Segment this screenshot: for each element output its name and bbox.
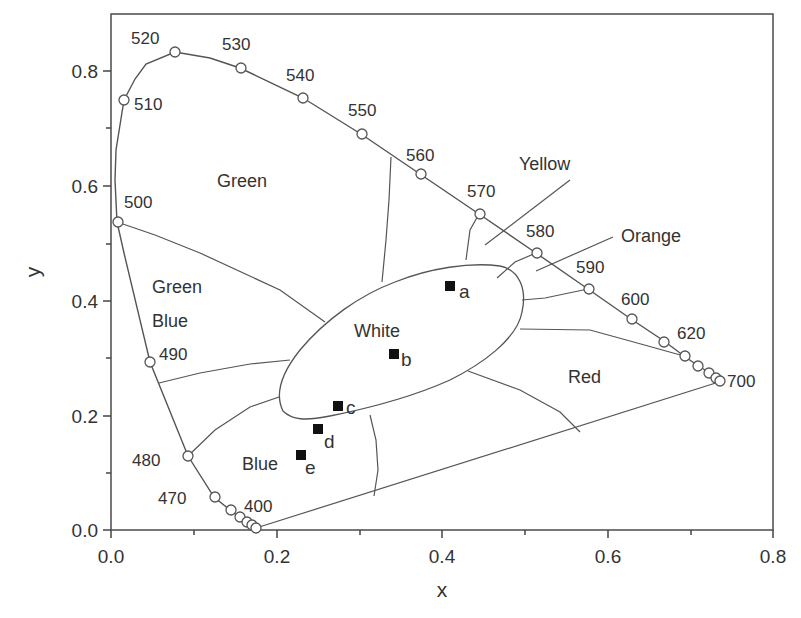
region-label-green-blue: Blue <box>152 311 188 331</box>
y-tick-label: 0.2 <box>72 406 98 427</box>
x-axis-ticks <box>111 530 773 538</box>
y-tick-label: 0.8 <box>72 61 98 82</box>
point-label: e <box>305 457 316 478</box>
wavelength-label: 520 <box>131 29 159 48</box>
wavelength-label: 510 <box>134 95 162 114</box>
x-tick-label: 0.6 <box>595 546 621 567</box>
x-axis-title: x <box>437 578 448 601</box>
region-label-orange: Orange <box>621 226 681 246</box>
wavelength-label: 620 <box>677 324 705 343</box>
x-tick-label: 0.4 <box>429 546 456 567</box>
point-label: d <box>324 431 335 452</box>
wavelength-label: 480 <box>132 451 160 470</box>
wavelength-label: 470 <box>158 489 186 508</box>
region-label-yellow: Yellow <box>519 154 571 174</box>
wavelength-label: 700 <box>727 372 755 391</box>
wavelength-label: 580 <box>526 222 554 241</box>
wavelength-label: 600 <box>621 290 649 309</box>
wavelength-label: 530 <box>222 35 250 54</box>
point-label: c <box>346 397 356 418</box>
wavelength-label: 490 <box>159 345 187 364</box>
x-tick-label: 0.2 <box>264 546 290 567</box>
plot-frame <box>111 14 773 530</box>
wavelength-label: 550 <box>348 101 376 120</box>
point-d-marker <box>313 424 323 434</box>
x-tick-label: 0.0 <box>98 546 124 567</box>
wavelength-label: 560 <box>406 146 434 165</box>
region-label-red: Red <box>568 367 601 387</box>
y-axis-title: y <box>21 266 44 277</box>
wavelength-label: 570 <box>467 182 495 201</box>
y-tick-label: 0.0 <box>72 520 98 541</box>
region-label-green-blue: Green <box>152 277 202 297</box>
wavelength-label: 500 <box>124 193 152 212</box>
y-axis-ticks <box>103 71 111 530</box>
x-tick-label: 0.8 <box>760 546 786 567</box>
region-label-green: Green <box>217 171 267 191</box>
wavelength-label: 400 <box>244 497 272 516</box>
region-label-white: White <box>354 321 400 341</box>
wavelength-label: 540 <box>286 66 314 85</box>
point-label: b <box>401 349 412 370</box>
line-of-purples <box>256 381 722 528</box>
point-a-marker <box>445 281 455 291</box>
region-boundaries <box>117 157 684 496</box>
wavelength-label: 590 <box>576 258 604 277</box>
point-b-marker <box>389 349 399 359</box>
sample-points <box>296 281 455 460</box>
y-tick-label: 0.6 <box>72 176 98 197</box>
white-region-boundary <box>279 265 523 419</box>
point-c-marker <box>333 401 343 411</box>
y-tick-label: 0.4 <box>72 291 99 312</box>
point-label: a <box>459 281 470 302</box>
cie-chromaticity-chart: 0.0 0.2 0.4 0.6 0.8 0.0 0.2 0.4 0.6 0.8 … <box>0 0 801 618</box>
region-label-blue: Blue <box>242 454 278 474</box>
